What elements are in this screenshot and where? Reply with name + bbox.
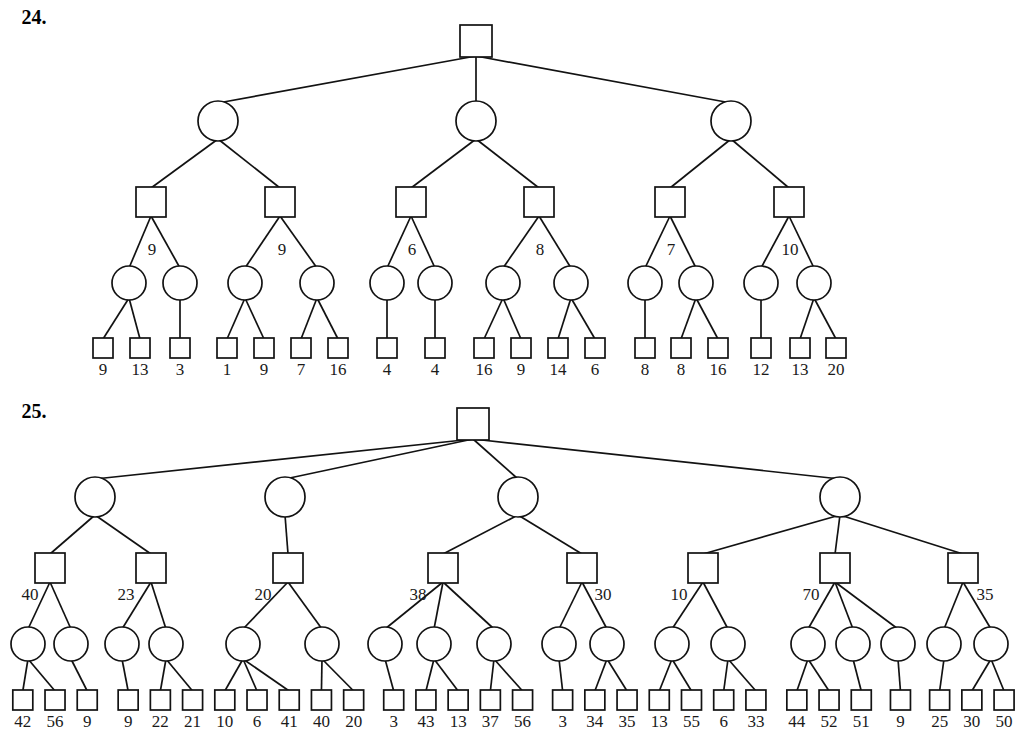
level2-node-circle-0[interactable] bbox=[75, 477, 115, 517]
leaf-node-square-29[interactable] bbox=[994, 690, 1014, 710]
level2-node-circle-1[interactable] bbox=[456, 101, 496, 141]
level3-node-square-3[interactable] bbox=[524, 187, 554, 217]
leaf-node-square-27[interactable] bbox=[930, 690, 950, 710]
leaf-node-square-5[interactable] bbox=[291, 338, 311, 358]
root-node-square[interactable] bbox=[460, 25, 492, 57]
level4-node-circle-0[interactable] bbox=[11, 627, 45, 661]
leaf-node-square-20[interactable] bbox=[681, 690, 701, 710]
level3-node-square-5[interactable] bbox=[688, 553, 718, 583]
level4-node-circle-7[interactable] bbox=[554, 266, 588, 300]
leaf-node-square-18[interactable] bbox=[617, 690, 637, 710]
leaf-node-square-15[interactable] bbox=[513, 690, 533, 710]
root-node-square[interactable] bbox=[457, 408, 489, 440]
level4-node-circle-4[interactable] bbox=[226, 627, 260, 661]
level4-node-circle-5[interactable] bbox=[418, 266, 452, 300]
level4-node-circle-10[interactable] bbox=[744, 266, 778, 300]
leaf-node-square-12[interactable] bbox=[416, 690, 436, 710]
level4-node-circle-0[interactable] bbox=[112, 266, 146, 300]
level4-node-circle-16[interactable] bbox=[927, 627, 961, 661]
leaf-node-square-9[interactable] bbox=[311, 690, 331, 710]
leaf-node-square-5[interactable] bbox=[183, 690, 203, 710]
level3-node-square-7[interactable] bbox=[948, 553, 978, 583]
level3-node-square-2[interactable] bbox=[396, 187, 426, 217]
level3-node-square-0[interactable] bbox=[35, 553, 65, 583]
level4-node-circle-11[interactable] bbox=[655, 627, 689, 661]
level3-node-square-1[interactable] bbox=[265, 187, 295, 217]
leaf-node-square-16[interactable] bbox=[751, 338, 771, 358]
level4-node-circle-10[interactable] bbox=[590, 627, 624, 661]
leaf-node-square-16[interactable] bbox=[553, 690, 573, 710]
leaf-node-square-23[interactable] bbox=[787, 690, 807, 710]
leaf-node-square-4[interactable] bbox=[254, 338, 274, 358]
level4-node-circle-2[interactable] bbox=[228, 266, 262, 300]
leaf-node-square-12[interactable] bbox=[585, 338, 605, 358]
level4-node-circle-9[interactable] bbox=[542, 627, 576, 661]
level4-node-circle-7[interactable] bbox=[417, 627, 451, 661]
leaf-node-square-0[interactable] bbox=[93, 338, 113, 358]
leaf-node-square-26[interactable] bbox=[890, 690, 910, 710]
level2-node-circle-2[interactable] bbox=[711, 101, 751, 141]
leaf-node-square-7[interactable] bbox=[247, 690, 267, 710]
leaf-node-square-7[interactable] bbox=[377, 338, 397, 358]
leaf-node-square-17[interactable] bbox=[585, 690, 605, 710]
level2-node-circle-1[interactable] bbox=[265, 477, 305, 517]
leaf-node-square-14[interactable] bbox=[480, 690, 500, 710]
level4-node-circle-2[interactable] bbox=[105, 627, 139, 661]
leaf-node-square-10[interactable] bbox=[344, 690, 364, 710]
leaf-node-square-1[interactable] bbox=[130, 338, 150, 358]
level4-node-circle-4[interactable] bbox=[370, 266, 404, 300]
level4-node-circle-3[interactable] bbox=[149, 627, 183, 661]
level4-node-circle-11[interactable] bbox=[797, 266, 831, 300]
leaf-node-square-24[interactable] bbox=[819, 690, 839, 710]
level4-node-circle-8[interactable] bbox=[628, 266, 662, 300]
level4-node-circle-9[interactable] bbox=[679, 266, 713, 300]
leaf-node-square-2[interactable] bbox=[77, 690, 97, 710]
leaf-node-square-22[interactable] bbox=[746, 690, 766, 710]
level2-node-circle-0[interactable] bbox=[198, 101, 238, 141]
level4-node-circle-13[interactable] bbox=[791, 627, 825, 661]
level3-node-square-4[interactable] bbox=[655, 187, 685, 217]
level4-node-circle-15[interactable] bbox=[881, 627, 915, 661]
leaf-node-square-0[interactable] bbox=[13, 690, 33, 710]
leaf-node-square-11[interactable] bbox=[548, 338, 568, 358]
leaf-node-square-19[interactable] bbox=[649, 690, 669, 710]
level3-node-square-1[interactable] bbox=[136, 553, 166, 583]
leaf-node-square-18[interactable] bbox=[826, 338, 846, 358]
level4-node-circle-8[interactable] bbox=[477, 627, 511, 661]
leaf-node-square-13[interactable] bbox=[448, 690, 468, 710]
leaf-node-square-3[interactable] bbox=[217, 338, 237, 358]
level3-node-square-0[interactable] bbox=[136, 187, 166, 217]
level4-node-circle-17[interactable] bbox=[974, 627, 1008, 661]
level3-node-square-5[interactable] bbox=[774, 187, 804, 217]
leaf-node-square-2[interactable] bbox=[170, 338, 190, 358]
leaf-node-square-25[interactable] bbox=[851, 690, 871, 710]
leaf-node-square-10[interactable] bbox=[511, 338, 531, 358]
leaf-node-square-17[interactable] bbox=[790, 338, 810, 358]
level4-node-circle-1[interactable] bbox=[163, 266, 197, 300]
level3-node-square-4[interactable] bbox=[567, 553, 597, 583]
level2-node-circle-2[interactable] bbox=[498, 477, 538, 517]
leaf-node-square-3[interactable] bbox=[118, 690, 138, 710]
leaf-node-square-4[interactable] bbox=[150, 690, 170, 710]
level3-node-square-6[interactable] bbox=[820, 553, 850, 583]
leaf-node-square-11[interactable] bbox=[384, 690, 404, 710]
leaf-node-square-14[interactable] bbox=[671, 338, 691, 358]
leaf-node-square-13[interactable] bbox=[635, 338, 655, 358]
level4-node-circle-1[interactable] bbox=[54, 627, 88, 661]
leaf-node-square-8[interactable] bbox=[279, 690, 299, 710]
leaf-node-square-28[interactable] bbox=[962, 690, 982, 710]
leaf-node-square-1[interactable] bbox=[45, 690, 65, 710]
level3-node-square-3[interactable] bbox=[428, 553, 458, 583]
level2-node-circle-3[interactable] bbox=[820, 477, 860, 517]
level4-node-circle-6[interactable] bbox=[368, 627, 402, 661]
level4-node-circle-14[interactable] bbox=[836, 627, 870, 661]
level4-node-circle-6[interactable] bbox=[486, 266, 520, 300]
level4-node-circle-5[interactable] bbox=[305, 627, 339, 661]
level4-node-circle-12[interactable] bbox=[711, 627, 745, 661]
leaf-node-square-15[interactable] bbox=[708, 338, 728, 358]
leaf-node-square-9[interactable] bbox=[474, 338, 494, 358]
leaf-node-square-6[interactable] bbox=[215, 690, 235, 710]
leaf-node-square-6[interactable] bbox=[328, 338, 348, 358]
leaf-node-square-8[interactable] bbox=[425, 338, 445, 358]
level4-node-circle-3[interactable] bbox=[300, 266, 334, 300]
